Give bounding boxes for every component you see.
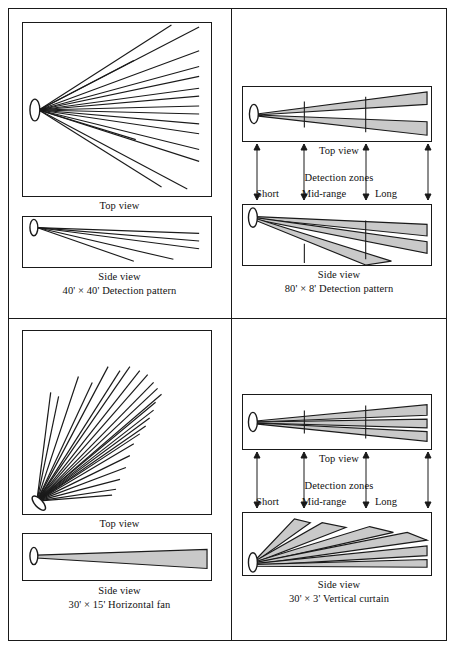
- side-view-beams-80x8: [243, 205, 431, 265]
- top-view-beams-80x8: [243, 87, 431, 141]
- detection-zones-label: Detection zones: [231, 479, 447, 492]
- sensor-lens-icon: [30, 219, 38, 235]
- panel-vertical-curtain-30x3: Top view Detection zones Short Mid-range…: [231, 318, 447, 641]
- panel-caption-80x8: 80' × 8' Detection pattern: [231, 282, 447, 296]
- side-view-box-80x8: [242, 204, 432, 266]
- top-view-label-40x40: Top view: [8, 199, 231, 212]
- top-view-box-30x3: [242, 394, 432, 450]
- zone-label-short: Short: [242, 188, 293, 199]
- sensor-lens-icon: [248, 553, 257, 572]
- beam-wedge: [37, 549, 207, 568]
- side-view-beams-30x15: [23, 534, 211, 580]
- panel-detection-40x40: Top view Side view 40' × 40' Detection p…: [8, 8, 231, 318]
- beam-wedge-lower: [257, 115, 427, 135]
- zone-label-long: Long: [355, 496, 417, 507]
- sensor-lens-icon: [30, 547, 38, 564]
- top-view-box-40x40: [22, 22, 212, 197]
- panel-horizontal-fan-30x15: Top view Side view 30' × 15' Horizontal …: [8, 318, 231, 641]
- panel-caption-40x40: 40' × 40' Detection pattern: [8, 284, 231, 298]
- detection-zones-label: Detection zones: [231, 171, 447, 184]
- sensor-lens-icon: [30, 99, 40, 121]
- top-view-box-30x15: [22, 330, 212, 515]
- top-view-label-30x15: Top view: [8, 517, 231, 530]
- top-view-beams-30x3: [243, 395, 431, 449]
- sensor-lens-icon: [248, 412, 257, 431]
- panel-caption-30x15: 30' × 15' Horizontal fan: [8, 598, 231, 612]
- zone-label-short: Short: [242, 496, 293, 507]
- top-view-beams-40x40: [23, 23, 211, 196]
- side-view-beams-40x40: [23, 217, 211, 267]
- side-view-box-30x15: [22, 533, 212, 581]
- top-view-box-80x8: [242, 86, 432, 142]
- figure-page: Top view Side view 40' × 40' Detection p…: [0, 0, 455, 649]
- side-view-label-80x8: Side view: [231, 268, 447, 282]
- side-view-label-30x15: Side view: [8, 584, 231, 598]
- panel-caption-30x3: 30' × 3' Vertical curtain: [231, 592, 447, 606]
- zone-label-mid-range: Mid-range: [293, 188, 355, 199]
- beam-wedge-upper: [257, 92, 427, 115]
- side-view-box-30x3: [242, 512, 432, 576]
- zone-label-long: Long: [355, 188, 417, 199]
- sensor-lens-icon: [248, 208, 257, 227]
- panel-detection-80x8: Top view Detection zones Short Mid-range…: [231, 8, 447, 318]
- side-view-label-30x3: Side view: [231, 578, 447, 592]
- side-view-label-40x40: Side view: [8, 270, 231, 284]
- zone-label-mid-range: Mid-range: [293, 496, 355, 507]
- top-view-beams-30x15: [23, 331, 211, 514]
- sensor-lens-icon: [249, 104, 258, 123]
- side-view-box-40x40: [22, 216, 212, 268]
- side-view-beams-30x3: [243, 513, 431, 575]
